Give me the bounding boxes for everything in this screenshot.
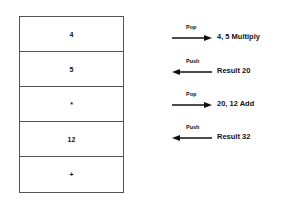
- operation-pop-2: Pop 20, 12 Add: [172, 91, 287, 113]
- operation-push-2: Push Result 32: [172, 124, 287, 146]
- operation-label: Push: [186, 124, 199, 130]
- operation-label: Push: [186, 58, 199, 64]
- arrow-right-icon: [172, 35, 212, 41]
- stack-cell: 5: [20, 52, 123, 87]
- arrow-right-icon: [172, 102, 212, 108]
- stack-cell: *: [20, 87, 123, 122]
- operation-text: Result 20: [217, 66, 250, 75]
- operation-text: 20, 12 Add: [217, 99, 254, 108]
- operation-label: Pop: [186, 24, 196, 30]
- operation-label: Pop: [186, 91, 196, 97]
- operation-text: 4, 5 Multiply: [217, 32, 260, 41]
- arrow-left-icon: [172, 135, 212, 141]
- stack-cell: 12: [20, 122, 123, 157]
- stack-cell: 4: [20, 17, 123, 52]
- arrow-left-icon: [172, 69, 212, 75]
- stack-diagram: 4 5 * 12 +: [19, 16, 124, 193]
- operation-push-1: Push Result 20: [172, 58, 287, 80]
- operation-pop-1: Pop 4, 5 Multiply: [172, 24, 287, 46]
- stack-cell: +: [20, 157, 123, 192]
- operation-text: Result 32: [217, 132, 250, 141]
